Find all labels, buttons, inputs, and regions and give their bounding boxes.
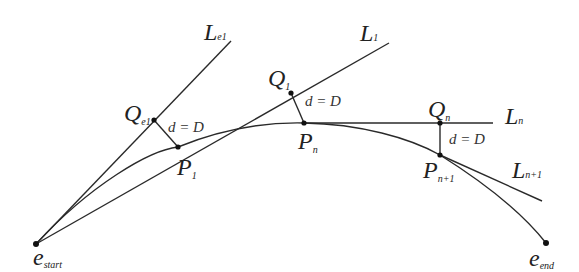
label-pn1: Pn+1 xyxy=(423,158,454,182)
label-p1: P1 xyxy=(177,155,197,179)
label-ln1: Ln+1 xyxy=(512,158,542,182)
offset-segment-q1-pn xyxy=(291,93,304,123)
distance-label-3: d = D xyxy=(449,132,485,147)
label-qn: Qn xyxy=(428,97,450,121)
point-pn1 xyxy=(437,152,442,157)
label-l1: L1 xyxy=(360,21,378,45)
point-p1 xyxy=(175,144,180,149)
distance-label-2: d = D xyxy=(305,94,341,109)
label-q1: Q1 xyxy=(268,66,290,90)
tangent-line-le1 xyxy=(36,41,231,244)
point-pn xyxy=(301,120,306,125)
label-qe1: Qe1 xyxy=(124,101,151,125)
point-qe1 xyxy=(151,117,156,122)
distance-label-1: d = D xyxy=(168,120,204,135)
diagram-canvas: Le1 L1 Ln Ln+1 Qe1 Q1 Qn P1 Pn Pn+1 esta… xyxy=(0,0,579,272)
label-e-start: estart xyxy=(33,245,62,269)
tangent-line-l1 xyxy=(36,43,389,244)
label-e-end: eend xyxy=(529,246,554,270)
label-le1: Le1 xyxy=(204,20,227,44)
diagram-svg xyxy=(0,0,579,272)
label-ln: Ln xyxy=(505,104,523,128)
label-pn: Pn xyxy=(298,129,318,153)
